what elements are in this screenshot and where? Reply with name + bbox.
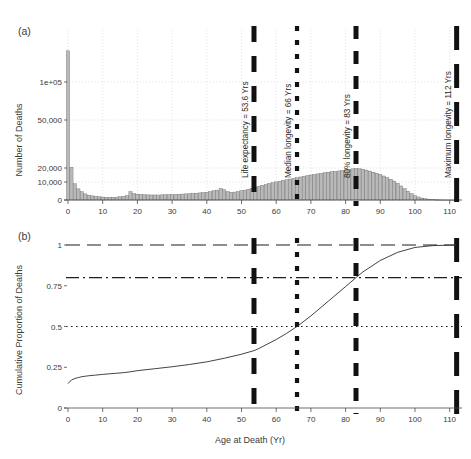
histogram-bar xyxy=(198,193,201,200)
histogram-bar xyxy=(84,194,87,200)
histogram-bar xyxy=(257,186,260,200)
histogram-bar xyxy=(153,195,156,200)
panel-a-x-tick-label: 10 xyxy=(98,207,107,216)
histogram-bar xyxy=(368,171,371,200)
histogram-bar xyxy=(229,192,232,200)
histogram-bar xyxy=(396,183,399,200)
histogram-bar xyxy=(240,191,243,200)
panel-b-x-tick-label: 0 xyxy=(66,415,71,424)
panel-a-y-axis-title: Number of Deaths xyxy=(14,103,24,177)
panel-b-x-tick-label: 80 xyxy=(341,415,350,424)
histogram-bar xyxy=(80,192,83,200)
histogram-bar xyxy=(129,192,132,200)
panel-b-x-tick-label: 30 xyxy=(168,415,177,424)
annotation-label-eighty-pct-longevity: 80% longevity = 83 Yrs xyxy=(343,94,352,178)
histogram-bar xyxy=(365,170,368,200)
annotation-label-maximum-longevity: Maximum longevity = 112 Yrs xyxy=(444,71,453,178)
histogram-bar xyxy=(125,196,128,200)
panel-a-x-tick-label: 70 xyxy=(306,207,315,216)
histogram-bar xyxy=(309,175,312,200)
histogram-bar xyxy=(108,197,111,200)
panel-b-y-tick-label: 0.5 xyxy=(51,323,63,332)
histogram-bar xyxy=(379,175,382,200)
panel-b-x-tick-label: 40 xyxy=(202,415,211,424)
panel-a-x-tick-label: 30 xyxy=(168,207,177,216)
panel-b-x-tick-label: 100 xyxy=(408,415,422,424)
histogram-bar xyxy=(174,194,177,200)
histogram-bar xyxy=(264,185,267,200)
histogram-bar xyxy=(410,194,413,200)
histogram-bar xyxy=(146,195,149,200)
panel-a-x-tick-label: 90 xyxy=(376,207,385,216)
histogram-bar xyxy=(112,197,115,200)
panel-b-x-tick-label: 110 xyxy=(443,415,456,424)
panel-a-x-tick-label: 110 xyxy=(443,207,456,216)
mortality-figure: (a) 1e+0550,00020,00010,0000 01020304050… xyxy=(0,0,471,459)
histogram-bar xyxy=(386,178,389,200)
histogram-bar xyxy=(91,196,94,200)
panel-a-y-tick-label: 50,000 xyxy=(38,116,63,125)
histogram-bar xyxy=(403,189,406,200)
histogram-bar xyxy=(115,197,118,200)
histogram-bar xyxy=(118,197,121,200)
histogram-bar xyxy=(167,195,170,200)
panel-a-label: (a) xyxy=(18,25,31,37)
histogram-bar xyxy=(389,179,392,200)
panel-b-y-tick-label: 0 xyxy=(58,404,63,413)
histogram-bar xyxy=(164,195,167,200)
histogram-bar xyxy=(139,195,142,200)
histogram-bar xyxy=(275,182,278,200)
histogram-bar xyxy=(400,186,403,200)
histogram-bar xyxy=(243,190,246,200)
histogram-bar xyxy=(195,193,198,200)
panel-b-x-tick-label: 70 xyxy=(306,415,315,424)
figure-background xyxy=(0,0,471,459)
histogram-bar xyxy=(219,189,222,200)
annotation-label-median-longevity: Median longevity = 66 Yrs xyxy=(284,84,293,178)
histogram-bar xyxy=(406,191,409,200)
histogram-bar xyxy=(268,184,271,200)
panel-b-y-tick-label: 0.75 xyxy=(46,282,62,291)
panel-b-x-tick-label: 90 xyxy=(376,415,385,424)
histogram-bar xyxy=(188,194,191,200)
panel-b-x-axis-title: Age at Death (Yr) xyxy=(215,435,285,445)
histogram-bar xyxy=(157,195,160,200)
panel-a-x-tick-label: 40 xyxy=(202,207,211,216)
histogram-bar xyxy=(261,185,264,200)
histogram-bar xyxy=(73,184,76,200)
histogram-bar xyxy=(334,171,337,200)
annotation-label-life-expectancy: Life expectancy = 53.6 Yrs xyxy=(241,81,250,178)
histogram-bar xyxy=(302,176,305,200)
histogram-bar xyxy=(372,172,375,200)
histogram-bar xyxy=(122,196,125,200)
histogram-bar xyxy=(184,194,187,200)
histogram-bar xyxy=(320,173,323,200)
histogram-bar xyxy=(233,192,236,200)
panel-b-y-tick-label: 1 xyxy=(58,241,63,250)
histogram-bar xyxy=(299,177,302,200)
panel-b-x-tick-label: 50 xyxy=(237,415,246,424)
histogram-bar xyxy=(247,189,250,200)
histogram-bar xyxy=(98,197,101,200)
histogram-bar xyxy=(171,195,174,200)
histogram-bar xyxy=(337,171,340,200)
histogram-bar xyxy=(94,196,97,200)
histogram-bar xyxy=(202,193,205,200)
panel-a-x-tick-label: 20 xyxy=(133,207,142,216)
histogram-bar xyxy=(223,190,226,200)
histogram-bar xyxy=(181,194,184,200)
panel-a-y-tick-label: 10,000 xyxy=(38,178,63,187)
histogram-bar xyxy=(216,190,219,200)
histogram-bar xyxy=(177,194,180,200)
histogram-bar xyxy=(278,181,281,200)
histogram-bar xyxy=(417,197,420,200)
histogram-bar xyxy=(209,192,212,200)
histogram-bar xyxy=(191,193,194,200)
histogram-bar xyxy=(143,195,146,200)
panel-b-y-tick-label: 0.25 xyxy=(46,363,62,372)
panel-a-y-tick-label: 1e+05 xyxy=(40,78,63,87)
histogram-bar xyxy=(285,180,288,200)
panel-a-x-tick-label: 80 xyxy=(341,207,350,216)
histogram-bar xyxy=(271,183,274,200)
histogram-bar xyxy=(292,178,295,200)
